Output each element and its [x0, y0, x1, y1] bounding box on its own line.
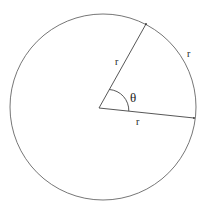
circle-radian-diagram: r r θ r: [0, 0, 208, 215]
upper-endpoint: [145, 23, 147, 25]
circle: [10, 14, 196, 200]
angle-arc: [109, 90, 129, 112]
label-angle-theta: θ: [130, 90, 136, 105]
label-radius-upper: r: [115, 56, 119, 67]
label-arc: r: [187, 48, 191, 59]
lower-endpoint: [193, 117, 195, 119]
radius-lower: [99, 108, 194, 118]
label-radius-lower: r: [136, 116, 140, 127]
